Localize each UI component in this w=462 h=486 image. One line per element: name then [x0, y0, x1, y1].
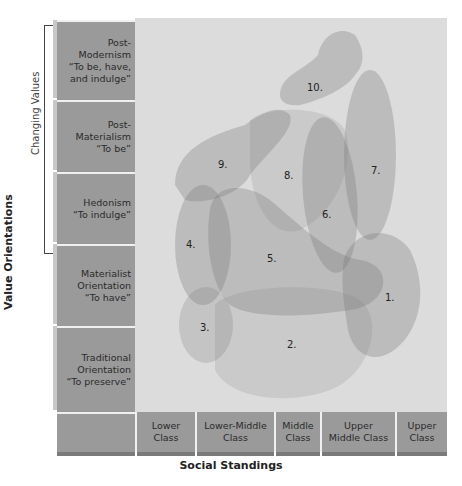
segment-label-3: 3. [200, 322, 210, 333]
segment-1-shape [342, 233, 420, 357]
segment-label-2: 2. [287, 339, 297, 350]
row-label-line: Modernism [57, 49, 131, 61]
col-label-line: Lower-Middle [197, 420, 274, 432]
row-label-post-modernism: Post- Modernism “To be, have, and indulg… [57, 20, 135, 100]
segment-label-4: 4. [186, 239, 196, 250]
row-label-materialist: Materialist Orientation “To have” [57, 244, 135, 326]
row-label-line: Hedonism [57, 197, 131, 209]
segment-label-6: 6. [322, 209, 332, 220]
col-label-line: Class [397, 432, 447, 444]
col-label-upper-middle-class: Upper Middle Class [320, 412, 395, 452]
segment-label-8: 8. [284, 170, 294, 181]
col-label-lower-middle-class: Lower-Middle Class [195, 412, 274, 452]
corner-cell [57, 412, 135, 452]
row-label-line: “To be, have, [57, 61, 131, 73]
row-label-line: Post- [57, 37, 131, 49]
col-label-line: Class [197, 432, 274, 444]
col-label-line: Class [137, 432, 195, 444]
row-label-line: Orientation [57, 280, 131, 292]
changing-values-label: Changing Values [30, 72, 41, 155]
row-label-line: “To be” [57, 143, 131, 155]
col-label-line: Class [276, 432, 320, 444]
row-label-line: “To have” [57, 292, 131, 304]
row-label-line: Orientation [57, 364, 131, 376]
col-label-line: Upper [322, 420, 395, 432]
row-label-line: and indulge” [57, 73, 131, 85]
row-label-hedonism: Hedonism “To indulge” [57, 172, 135, 244]
col-label-middle-class: Middle Class [274, 412, 320, 452]
segment-label-5: 5. [267, 253, 277, 264]
col-label-line: Middle Class [322, 432, 395, 444]
row-label-line: Post- [57, 119, 131, 131]
segment-label-10: 10. [307, 82, 323, 93]
row-label-line: Materialism [57, 131, 131, 143]
changing-values-bracket [44, 25, 53, 254]
x-axis-title: Social Standings [0, 459, 462, 472]
segment-10-shape [280, 31, 363, 105]
row-label-line: “To preserve” [57, 376, 131, 388]
col-label-upper-class: Upper Class [395, 412, 447, 452]
row-label-line: Traditional [57, 352, 131, 364]
row-label-post-materialism: Post- Materialism “To be” [57, 100, 135, 172]
col-label-line: Lower [137, 420, 195, 432]
y-axis-title: Value Orientations [2, 194, 15, 310]
col-label-lower-class: Lower Class [135, 412, 195, 452]
segment-label-9: 9. [218, 159, 228, 170]
row-label-line: Materialist [57, 268, 131, 280]
segment-label-1: 1. [385, 292, 395, 303]
col-label-line: Middle [276, 420, 320, 432]
row-label-line: “To indulge” [57, 209, 131, 221]
row-label-traditional: Traditional Orientation “To preserve” [57, 326, 135, 412]
col-label-line: Upper [397, 420, 447, 432]
segment-label-7: 7. [371, 165, 381, 176]
